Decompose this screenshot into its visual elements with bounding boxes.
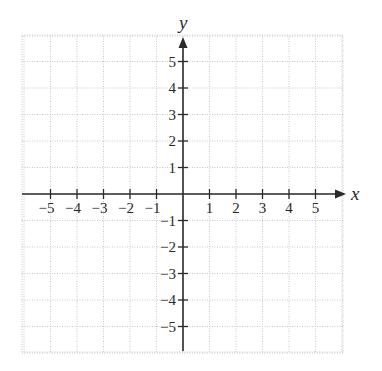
y-tick-label: −5	[160, 319, 176, 335]
x-tick-label: 5	[312, 200, 320, 216]
axes	[22, 37, 346, 351]
y-tick-label: −1	[160, 213, 176, 229]
x-axis-label: x	[350, 183, 360, 204]
y-tick-label: 3	[169, 107, 177, 123]
coordinate-plane: −5−4−3−2−112345−5−4−3−2−112345 x y	[0, 0, 382, 371]
x-tick-label: −1	[145, 200, 161, 216]
y-tick-label: 1	[169, 160, 177, 176]
x-tick-label: −3	[92, 200, 108, 216]
y-tick-label: 2	[169, 133, 177, 149]
x-tick-label: 1	[206, 200, 214, 216]
y-axis-arrow-icon	[179, 37, 188, 48]
x-tick-label: −4	[65, 200, 81, 216]
x-tick-label: −5	[39, 200, 55, 216]
y-axis-label: y	[177, 12, 188, 33]
x-tick-label: 2	[232, 200, 240, 216]
y-tick-label: 5	[169, 54, 177, 70]
y-tick-label: −3	[160, 266, 176, 282]
x-axis-arrow-icon	[335, 190, 346, 199]
y-tick-label: −4	[160, 292, 176, 308]
y-tick-label: 4	[169, 80, 177, 96]
x-tick-label: 4	[285, 200, 293, 216]
x-tick-label: 3	[259, 200, 267, 216]
y-tick-label: −2	[160, 239, 176, 255]
x-tick-label: −2	[118, 200, 134, 216]
